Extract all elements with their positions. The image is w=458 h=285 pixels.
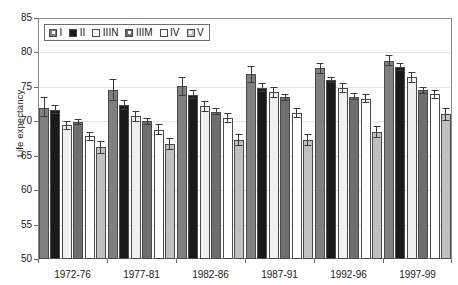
error-bar (270, 87, 277, 98)
bar-i-1987-91[interactable] (246, 74, 256, 259)
bar-iiim-1982-86[interactable] (211, 112, 221, 259)
bar-slot (223, 18, 233, 259)
legend-swatch-icon (69, 29, 77, 37)
bar-iiim-1977-81[interactable] (142, 121, 152, 259)
error-bar-cap-bottom (248, 82, 255, 83)
chart-container: Life expectancy 8580757065605550 1972-76… (0, 0, 458, 285)
bar-iiin-1997-99[interactable] (407, 77, 417, 259)
legend-swatch-icon (187, 29, 195, 37)
legend-item-i[interactable]: I (49, 27, 62, 38)
legend-item-ii[interactable]: II (69, 27, 85, 38)
bar-group (314, 18, 383, 259)
bar-v-1982-86[interactable] (234, 140, 244, 259)
error-bar (224, 113, 231, 123)
bar-slot (372, 18, 382, 259)
error-bar-cap-top (386, 55, 393, 56)
bar-slot (119, 18, 129, 259)
bar-ii-1982-86[interactable] (188, 95, 198, 259)
bar-v-1977-81[interactable] (165, 144, 175, 259)
bar-slot (361, 18, 371, 259)
error-bar-cap-top (86, 132, 93, 133)
error-bar-cap-top (397, 63, 404, 64)
error-bar (52, 105, 59, 115)
error-bar-cap-bottom (351, 99, 358, 100)
bar-iv-1977-81[interactable] (154, 130, 164, 259)
x-axis-label-text: 1987-91 (261, 269, 298, 280)
bar-ii-1992-96[interactable] (326, 80, 336, 259)
bar-iv-1997-99[interactable] (430, 94, 440, 259)
error-bar-line (44, 97, 45, 117)
error-bar (166, 138, 173, 150)
bar-slot (292, 18, 302, 259)
error-bar-cap-bottom (339, 92, 346, 93)
error-bar (351, 93, 358, 100)
bar-iiin-1972-76[interactable] (62, 125, 72, 259)
error-bar (144, 118, 151, 125)
error-bar-cap-bottom (86, 140, 93, 141)
bar-v-1992-96[interactable] (372, 132, 382, 259)
error-bar (132, 111, 139, 122)
bar-ii-1987-91[interactable] (257, 88, 267, 259)
bar-slot (188, 18, 198, 259)
legend-item-v[interactable]: V (187, 27, 204, 38)
y-axis-tick-label: 60 (2, 184, 32, 195)
error-bar-cap-top (144, 118, 151, 119)
bar-iiin-1987-91[interactable] (269, 92, 279, 259)
error-bar-cap-bottom (420, 93, 427, 94)
error-bar (408, 72, 415, 83)
bar-slot (177, 18, 187, 259)
bar-slot (303, 18, 313, 259)
bar-slot (39, 18, 49, 259)
legend-item-iv[interactable]: IV (160, 27, 180, 38)
error-bar-cap-bottom (408, 82, 415, 83)
x-axis-tick-mark (38, 259, 39, 263)
y-axis-tick-label: 55 (2, 219, 32, 230)
bar-v-1972-76[interactable] (96, 147, 106, 259)
y-axis-tick-label: 75 (2, 81, 32, 92)
x-axis-label-text: 1982-86 (192, 269, 229, 280)
bar-slot (280, 18, 290, 259)
bar-ii-1972-76[interactable] (50, 110, 60, 259)
error-bar-cap-top (235, 134, 242, 135)
bar-slot (108, 18, 118, 259)
x-axis-tick-label: 1972-76 (38, 259, 107, 285)
bar-slot (349, 18, 359, 259)
bar-v-1997-99[interactable] (441, 114, 451, 259)
error-bar (304, 134, 311, 146)
x-axis-label-text: 1992-96 (330, 269, 367, 280)
bar-iiin-1982-86[interactable] (200, 106, 210, 259)
bar-iv-1972-76[interactable] (85, 136, 95, 259)
error-bar-cap-top (282, 94, 289, 95)
bar-i-1992-96[interactable] (315, 68, 325, 259)
bar-iiim-1992-96[interactable] (349, 97, 359, 260)
x-axis-tick-mark (451, 259, 452, 263)
bar-iv-1987-91[interactable] (292, 113, 302, 259)
bar-iiim-1987-91[interactable] (280, 97, 290, 259)
bar-slot (142, 18, 152, 259)
bar-i-1977-81[interactable] (108, 90, 118, 259)
bar-ii-1997-99[interactable] (395, 67, 405, 259)
error-bar-cap-top (132, 111, 139, 112)
bar-iiin-1992-96[interactable] (338, 88, 348, 259)
legend-item-iiim[interactable]: IIIM (125, 27, 152, 38)
error-bar-cap-top (248, 66, 255, 67)
error-bar-cap-bottom (373, 137, 380, 138)
legend-label: IIIM (136, 27, 153, 38)
bar-i-1982-86[interactable] (177, 86, 187, 259)
bar-iiin-1977-81[interactable] (131, 116, 141, 259)
bar-ii-1977-81[interactable] (119, 105, 129, 259)
bar-iv-1982-86[interactable] (223, 118, 233, 259)
error-bar-cap-bottom (224, 122, 231, 123)
bar-iiim-1972-76[interactable] (73, 122, 83, 259)
bar-slot (338, 18, 348, 259)
y-axis-tick-label: 65 (2, 150, 32, 161)
bar-i-1972-76[interactable] (39, 108, 49, 259)
legend-item-iiin[interactable]: IIIN (92, 27, 118, 38)
bar-iv-1992-96[interactable] (361, 99, 371, 259)
bar-iiim-1997-99[interactable] (418, 90, 428, 259)
error-bar (179, 77, 186, 96)
bar-slot (257, 18, 267, 259)
bar-v-1987-91[interactable] (303, 140, 313, 259)
error-bar-cap-bottom (63, 129, 70, 130)
bar-i-1997-99[interactable] (384, 61, 394, 259)
